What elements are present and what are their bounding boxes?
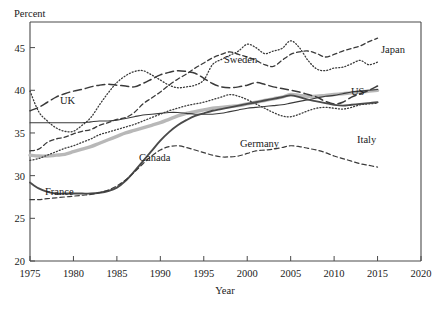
series-label-france: France	[45, 186, 74, 197]
x-tick-label: 2010	[324, 268, 345, 279]
chart-container: Percent 202530354045 1975198019851990199…	[0, 0, 443, 309]
y-tick-label: 30	[15, 171, 26, 182]
y-tick-label: 35	[15, 128, 26, 139]
y-tick-label: 45	[15, 43, 26, 54]
x-axis-ticks: 1975198019851990199520002005201020152020	[20, 256, 432, 279]
x-tick-label: 2005	[280, 268, 301, 279]
series-label-uk: UK	[60, 95, 76, 106]
series-line-uk	[30, 71, 378, 111]
x-tick-label: 2020	[411, 268, 432, 279]
data-series-group	[30, 38, 378, 199]
series-label-japan: Japan	[381, 44, 406, 55]
x-tick-label: 2015	[367, 268, 388, 279]
x-tick-label: 1990	[150, 268, 171, 279]
series-label-sweden: Sweden	[224, 54, 258, 65]
series-label-germany: Germany	[240, 138, 280, 149]
y-tick-label: 20	[15, 256, 26, 267]
x-tick-label: 1995	[193, 268, 214, 279]
x-tick-label: 1975	[20, 268, 41, 279]
y-tick-label: 25	[15, 213, 26, 224]
x-tick-label: 2000	[237, 268, 258, 279]
x-tick-label: 1980	[63, 268, 84, 279]
series-label-canada: Canada	[139, 152, 171, 163]
x-axis-title: Year	[215, 285, 235, 296]
y-tick-label: 40	[15, 85, 26, 96]
line-chart: Percent 202530354045 1975198019851990199…	[0, 0, 443, 309]
series-line-canada	[30, 146, 378, 200]
series-line-sweden	[30, 41, 378, 132]
x-tick-label: 1985	[106, 268, 127, 279]
series-label-italy: Italy	[357, 134, 377, 145]
series-label-us: US	[351, 86, 365, 97]
y-axis-title: Percent	[14, 8, 46, 19]
